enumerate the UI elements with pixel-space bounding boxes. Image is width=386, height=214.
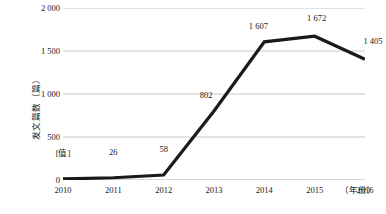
plot-area: [值]26588021 6071 6721 405 (63, 8, 365, 180)
data-point-label: 58 (159, 145, 168, 154)
y-axis-tick-label: 500 (20, 133, 60, 142)
data-point-label: 802 (200, 91, 213, 100)
y-axis-tick-label: 0 (20, 176, 60, 185)
y-axis-tick-label: 1 500 (20, 47, 60, 56)
x-axis-tick-label: 2014 (256, 186, 273, 195)
data-point-label: 1 607 (249, 22, 268, 31)
x-axis-tick-label: 2011 (105, 186, 122, 195)
line-chart: 发文篇数（篇） 05001 0001 5002 000 [值]26588021 … (0, 0, 386, 214)
y-axis-tick-label: 1 000 (20, 90, 60, 99)
series-line-fawen (63, 36, 365, 179)
x-axis-title: （年份） (340, 186, 376, 195)
x-axis-tick-label: 2010 (55, 186, 72, 195)
data-point-label: 1 672 (307, 14, 326, 23)
x-axis-tick-label: 2015 (306, 186, 323, 195)
data-point-label: 1 405 (363, 37, 382, 46)
x-axis-tick-label: 2012 (155, 186, 172, 195)
x-axis-tick-labels: 2010201120122013201420152016 (63, 186, 365, 208)
data-point-label: 26 (109, 148, 118, 157)
y-axis-tick-label: 2 000 (20, 4, 60, 13)
data-point-label: [值] (56, 149, 71, 158)
y-axis-tick-labels: 05001 0001 5002 000 (18, 0, 60, 214)
x-axis-tick-label: 2013 (206, 186, 223, 195)
